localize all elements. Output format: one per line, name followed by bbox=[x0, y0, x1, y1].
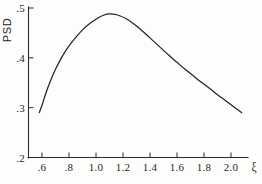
x-tick-label: 1.2 bbox=[116, 161, 131, 173]
y-tick-label: .3 bbox=[16, 102, 25, 114]
x-tick-label: 2.0 bbox=[224, 161, 239, 173]
x-tick-label: 1.4 bbox=[143, 161, 158, 173]
y-axis-title-group: PSD bbox=[1, 18, 13, 42]
y-axis-ticks: .2.3.4.5 bbox=[16, 2, 33, 164]
y-tick-label: .4 bbox=[16, 52, 25, 64]
x-tick-label: 1.0 bbox=[89, 161, 104, 173]
x-tick-label: .8 bbox=[65, 161, 74, 173]
chart-figure: PSD .2.3.4.5 .6.81.01.21.41.61.82.0 ξ bbox=[0, 0, 262, 184]
x-tick-label: 1.8 bbox=[197, 161, 212, 173]
psd-curve bbox=[39, 14, 242, 113]
psd-line-chart: PSD .2.3.4.5 .6.81.01.21.41.61.82.0 ξ bbox=[0, 0, 262, 184]
x-axis-ticks: .6.81.01.21.41.61.82.0 bbox=[38, 153, 239, 174]
x-axis-title-group: ξ bbox=[251, 161, 256, 174]
y-axis-title: PSD bbox=[1, 18, 13, 42]
y-tick-label: .2 bbox=[16, 152, 25, 164]
data-series-layer bbox=[39, 14, 242, 113]
y-tick-label: .5 bbox=[16, 2, 25, 14]
x-axis-title: ξ bbox=[251, 161, 256, 174]
x-tick-label: .6 bbox=[38, 161, 47, 173]
x-tick-label: 1.6 bbox=[170, 161, 185, 173]
axis-lines bbox=[28, 7, 248, 158]
